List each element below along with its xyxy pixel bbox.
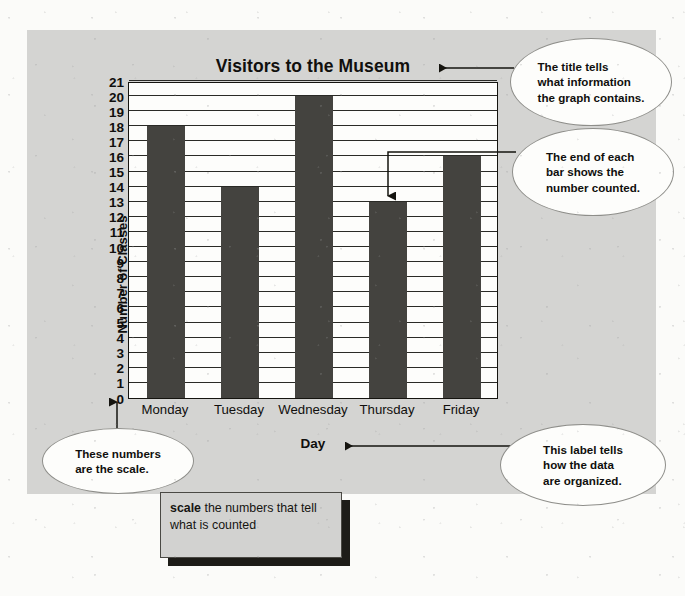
x-tick-monday: Monday — [128, 402, 202, 417]
y-tick-13: 13 — [94, 196, 124, 210]
callout-title: The title tellswhat informationthe graph… — [510, 38, 672, 126]
y-tick-15: 15 — [94, 166, 124, 180]
bar-wednesday — [295, 96, 333, 398]
y-tick-0: 0 — [94, 393, 124, 407]
bar-monday — [147, 126, 185, 398]
y-tick-8: 8 — [94, 272, 124, 286]
y-tick-16: 16 — [94, 151, 124, 165]
definition-box-body: scale the numbers that tell what is coun… — [160, 492, 342, 558]
x-axis-tick-labels: MondayTuesdayWednesdayThursdayFriday — [128, 402, 498, 424]
y-tick-5: 5 — [94, 317, 124, 331]
y-tick-17: 17 — [94, 136, 124, 150]
callout-line: what information — [538, 74, 645, 89]
plot-area — [128, 82, 498, 399]
y-tick-7: 7 — [94, 287, 124, 301]
callout-line: These numbers — [75, 446, 161, 461]
bar-friday — [443, 156, 481, 398]
y-tick-3: 3 — [94, 347, 124, 361]
y-tick-12: 12 — [94, 211, 124, 225]
definition-text: scale the numbers that tell what is coun… — [170, 500, 332, 534]
y-tick-20: 20 — [94, 91, 124, 105]
callout-line: The title tells — [538, 59, 645, 74]
x-tick-thursday: Thursday — [350, 402, 424, 417]
y-tick-19: 19 — [94, 106, 124, 120]
y-tick-6: 6 — [94, 302, 124, 316]
y-tick-10: 10 — [94, 242, 124, 256]
callout-scale-text: These numbersare the scale. — [69, 446, 167, 477]
bar-tuesday — [221, 187, 259, 398]
callout-line: are the scale. — [75, 461, 161, 476]
callout-x-label-text: This label tellshow the dataare organize… — [537, 442, 629, 488]
callout-bar-end: The end of eachbar shows thenumber count… — [512, 128, 674, 216]
callout-line: the graph contains. — [538, 90, 645, 105]
callout-bar-end-text: The end of eachbar shows thenumber count… — [540, 149, 646, 195]
callout-scale: These numbersare the scale. — [42, 428, 194, 494]
callout-x-label: This label tellshow the dataare organize… — [500, 424, 666, 506]
x-tick-friday: Friday — [424, 402, 498, 417]
y-tick-4: 4 — [94, 332, 124, 346]
y-tick-21: 21 — [94, 76, 124, 90]
definition-term: scale — [170, 501, 201, 515]
y-axis-tick-labels: Number of Classes 2120191817161514131211… — [90, 82, 124, 399]
callout-line: how the data — [543, 457, 623, 472]
callout-line: This label tells — [543, 442, 623, 457]
x-tick-tuesday: Tuesday — [202, 402, 276, 417]
x-tick-wednesday: Wednesday — [276, 402, 350, 417]
callout-title-text: The title tellswhat informationthe graph… — [532, 59, 651, 105]
callout-line: The end of each — [546, 149, 640, 164]
y-tick-18: 18 — [94, 121, 124, 135]
callout-line: bar shows the — [546, 164, 640, 179]
y-tick-14: 14 — [94, 181, 124, 195]
y-tick-1: 1 — [94, 377, 124, 391]
x-axis-title: Day — [258, 436, 368, 451]
y-tick-11: 11 — [94, 226, 124, 240]
callout-line: are organized. — [543, 473, 623, 488]
y-tick-9: 9 — [94, 257, 124, 271]
y-tick-2: 2 — [94, 362, 124, 376]
chart-title: Visitors to the Museum — [128, 56, 498, 77]
gridline — [129, 80, 497, 81]
callout-line: number counted. — [546, 180, 640, 195]
definition-box: scale the numbers that tell what is coun… — [160, 492, 342, 558]
bar-thursday — [369, 202, 407, 398]
